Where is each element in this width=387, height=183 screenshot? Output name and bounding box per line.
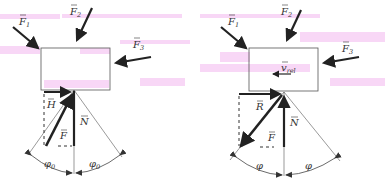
right-diagram: F1 F2 F3 vrel R F N φ φ	[221, 5, 359, 176]
force-f3-arrow	[324, 57, 359, 63]
normal-label: N	[289, 117, 300, 128]
resultant-label: R	[255, 101, 264, 112]
force-f1-arrow	[221, 27, 246, 48]
force-f1-arrow	[13, 27, 38, 48]
force-f3-arrow	[116, 57, 151, 63]
resultant-label: F	[59, 130, 68, 141]
angle-label-right: φ	[305, 160, 312, 171]
relative-velocity-label: vrel	[281, 62, 296, 75]
left-diagram: F1 F2 F3 H F N φ0 φ0	[13, 5, 151, 174]
normal-label: N	[79, 116, 90, 127]
angle-label-left: φ0	[44, 158, 55, 171]
watermark-bands	[0, 14, 385, 88]
friction-cone-diagram: F1 F2 F3 H F N φ0 φ0 F1 F2 F3	[0, 0, 387, 183]
force-f3-label: F3	[341, 43, 353, 56]
horizontal-label: H	[46, 99, 56, 110]
angle-label-left: φ	[256, 160, 263, 171]
friction-label: F	[267, 132, 276, 143]
